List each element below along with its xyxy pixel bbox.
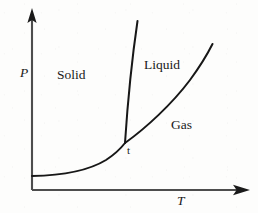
x-axis-label-temperature: T bbox=[177, 194, 185, 208]
fusion-curve bbox=[125, 21, 138, 143]
triple-point-label: t bbox=[127, 145, 130, 156]
region-label-liquid: Liquid bbox=[144, 58, 180, 72]
region-label-gas: Gas bbox=[171, 118, 192, 132]
phase-boundary-curves bbox=[32, 21, 213, 176]
sublimation-curve bbox=[32, 143, 125, 176]
phase-diagram-figure: Solid Liquid Gas P T t bbox=[0, 0, 258, 213]
region-label-solid: Solid bbox=[57, 68, 86, 82]
y-axis-label-pressure: P bbox=[20, 66, 28, 80]
axis-group bbox=[27, 8, 250, 195]
phase-diagram-canvas bbox=[0, 0, 258, 213]
